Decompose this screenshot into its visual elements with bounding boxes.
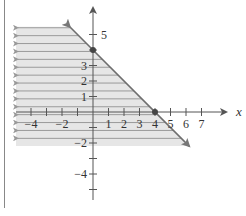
- y-tick-label: 5: [101, 28, 107, 42]
- x-tick-label: 6: [183, 117, 189, 131]
- shaded-region: [16, 27, 189, 146]
- y-tick-label: 3: [81, 59, 87, 73]
- x-tick-label: 4: [152, 117, 158, 131]
- y-tick-label: −4: [74, 167, 87, 181]
- x-tick-label: 3: [137, 117, 143, 131]
- y-tick-label: 1: [81, 90, 87, 104]
- x-tick-label: 1: [106, 117, 112, 131]
- y-tick-label: 2: [81, 74, 87, 88]
- x-tick-label: −4: [25, 117, 38, 131]
- y-tick-label: −2: [74, 136, 87, 150]
- inequality-graph: −4−212345675321−2−4 x: [0, 0, 246, 216]
- shade-fill: [16, 27, 189, 146]
- intercept-point: [152, 109, 158, 115]
- intercept-point: [90, 47, 96, 53]
- x-tick-label: 7: [199, 117, 205, 131]
- x-tick-label: 5: [168, 117, 174, 131]
- x-tick-label: −2: [56, 117, 69, 131]
- x-tick-label: 2: [121, 117, 127, 131]
- x-axis-label: x: [235, 104, 242, 119]
